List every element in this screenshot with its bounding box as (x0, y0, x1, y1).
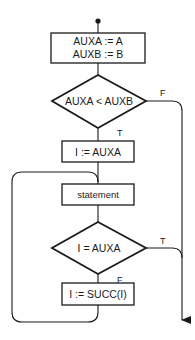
decision-auxa-lt-auxb: AUXA < AUXB (52, 75, 146, 128)
succ-label: I := SUCC(I) (69, 288, 126, 300)
decision-1-label: AUXA < AUXB (65, 95, 133, 107)
assign-box: I := AUXA (62, 141, 134, 162)
init-box: AUXA := A AUXB := B (51, 33, 145, 63)
init-line-2: AUXB := B (73, 48, 123, 60)
false-branch-exit-line (146, 101, 182, 320)
flowchart: AUXA := A AUXB := B AUXA < AUXB F T I :=… (0, 0, 195, 340)
decision-1-false-label: F (160, 88, 166, 98)
decision-1-true-label: T (117, 128, 123, 138)
succ-box: I := SUCC(I) (62, 283, 134, 305)
assign-label: I := AUXA (75, 146, 121, 158)
statement-label: statement (77, 189, 119, 200)
statement-box: statement (62, 184, 134, 205)
true-branch-exit-line (146, 248, 182, 258)
decision-i-eq-auxa: I = AUXA (52, 222, 146, 274)
init-line-1: AUXA := A (73, 35, 122, 47)
decision-2-label: I = AUXA (78, 242, 121, 254)
decision-2-true-label: T (160, 236, 166, 246)
